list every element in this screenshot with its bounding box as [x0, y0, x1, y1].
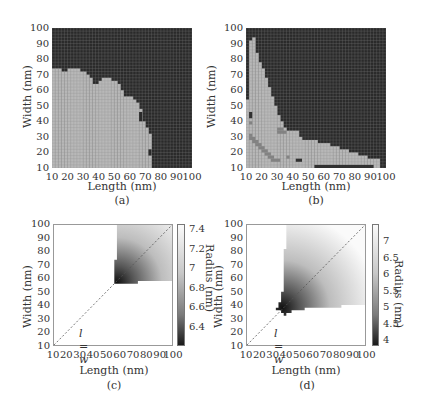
- y-tick-c: 80: [26, 246, 50, 256]
- y-tick-a: 20: [25, 147, 49, 157]
- y-tick-d: 90: [219, 233, 243, 243]
- y-tick-c: 90: [26, 233, 50, 243]
- colorbar-tick-c: 6.4: [189, 322, 205, 332]
- y-tick-b: 20: [219, 147, 243, 157]
- y-axis-label-c: Width (nm): [21, 265, 34, 328]
- y-tick-a: 100: [25, 23, 49, 33]
- y-tick-b: 90: [219, 39, 243, 49]
- colorbar-d: [372, 224, 379, 346]
- heatmap-c: [53, 224, 173, 346]
- y-tick-a: 90: [25, 39, 49, 49]
- caption-c: (c): [94, 379, 134, 392]
- y-axis-label-b: Width (nm): [205, 65, 218, 128]
- x-tick-c: 100: [163, 350, 183, 360]
- colorbar-c: [177, 224, 185, 346]
- heatmap-a: [52, 28, 192, 168]
- caption-a: (a): [102, 194, 142, 207]
- colorbar-tick-d: 7: [383, 236, 389, 246]
- y-tick-d: 80: [219, 246, 243, 256]
- y-tick-b: 30: [219, 132, 243, 142]
- caption-d: (d): [287, 379, 327, 392]
- x-axis-label-c: Length (nm): [44, 364, 184, 377]
- x-axis-label-b: Length (nm): [246, 180, 386, 193]
- y-tick-d: 20: [219, 327, 243, 337]
- y-tick-b: 40: [219, 116, 243, 126]
- y-tick-a: 30: [25, 132, 49, 142]
- y-tick-b: 70: [219, 70, 243, 80]
- y-tick-c: 100: [26, 219, 50, 229]
- x-tick-d: 100: [356, 350, 376, 360]
- colorbar-tick-d: 4: [383, 335, 389, 345]
- y-tick-a: 80: [25, 54, 49, 64]
- heatmap-d: [246, 224, 366, 346]
- colorbar-tick-d: 5: [383, 302, 389, 312]
- y-tick-c: 20: [26, 327, 50, 337]
- colorbar-tick-c: 7: [189, 263, 195, 273]
- y-tick-b: 100: [219, 23, 243, 33]
- heatmap-b: [246, 28, 386, 168]
- colorbar-tick-d: 6: [383, 269, 389, 279]
- y-tick-b: 50: [219, 101, 243, 111]
- caption-b: (b): [296, 194, 336, 207]
- y-axis-label-a: Width (nm): [21, 65, 34, 128]
- y-tick-b: 80: [219, 54, 243, 64]
- annotation-d: l = w: [274, 327, 283, 366]
- y-tick-d: 100: [219, 219, 243, 229]
- annotation-c: l = w: [79, 327, 88, 366]
- y-axis-label-d: Width (nm): [212, 265, 225, 328]
- y-tick-b: 60: [219, 85, 243, 95]
- colorbar-tick-c: 7.4: [189, 224, 205, 234]
- x-axis-label-d: Length (nm): [236, 364, 376, 377]
- colorbar-label-d: Radius (nm): [392, 260, 405, 328]
- x-axis-label-a: Length (nm): [52, 180, 192, 193]
